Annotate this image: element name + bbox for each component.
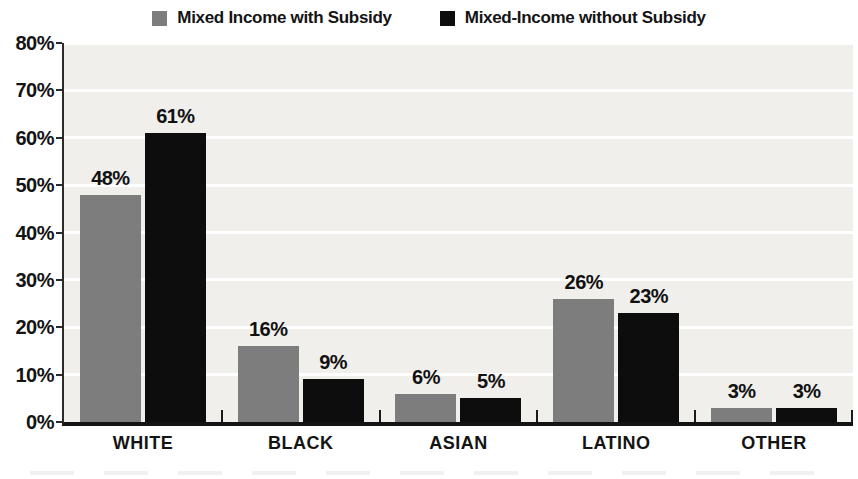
x-axis-label-white: WHITE — [64, 433, 222, 454]
legend-label-with-subsidy: Mixed Income with Subsidy — [177, 8, 391, 28]
bar-value-label: 16% — [249, 318, 288, 341]
bar-group-other: 3%3% — [695, 43, 853, 422]
x-axis-tick — [536, 410, 538, 422]
bar-value-label: 3% — [793, 380, 821, 403]
legend-swatch-with-subsidy — [152, 11, 167, 26]
bar-with-subsidy-latino: 26% — [553, 299, 614, 422]
x-axis-label-other: OTHER — [695, 433, 853, 454]
bar-value-label: 26% — [565, 271, 604, 294]
y-axis-label-60: 60% — [0, 126, 54, 150]
y-axis-label-30: 30% — [0, 268, 54, 292]
y-axis-tick — [56, 42, 62, 44]
bar-value-label: 3% — [728, 380, 756, 403]
bar-value-label: 23% — [630, 285, 669, 308]
y-axis-label-0: 0% — [0, 410, 54, 434]
bar-without-subsidy-asian: 5% — [460, 398, 521, 422]
y-axis-label-40: 40% — [0, 221, 54, 245]
bar-with-subsidy-black: 16% — [238, 346, 299, 422]
x-axis-tick — [221, 410, 223, 422]
bar-with-subsidy-white: 48% — [80, 195, 141, 422]
y-axis-tick — [56, 232, 62, 234]
chart-figure: Mixed Income with Subsidy Mixed-Income w… — [0, 0, 858, 479]
bar-value-label: 5% — [477, 370, 505, 393]
legend-swatch-without-subsidy — [440, 11, 455, 26]
bar-with-subsidy-other: 3% — [711, 408, 772, 422]
y-axis-tick — [56, 137, 62, 139]
y-axis-tick — [56, 421, 62, 423]
y-axis-tick — [56, 89, 62, 91]
bar-without-subsidy-white: 61% — [145, 133, 206, 422]
bar-value-label: 48% — [91, 167, 130, 190]
y-axis-label-20: 20% — [0, 315, 54, 339]
bar-value-label: 9% — [319, 351, 347, 374]
bar-without-subsidy-other: 3% — [776, 408, 837, 422]
y-axis-label-80: 80% — [0, 31, 54, 55]
bar-value-label: 61% — [156, 105, 195, 128]
bar-group-white: 48%61% — [64, 43, 222, 422]
y-axis-tick — [56, 374, 62, 376]
plot-area: 48%61%16%9%6%5%26%23%3%3% — [62, 43, 853, 426]
x-axis-tick-end — [851, 410, 853, 422]
chart-legend: Mixed Income with Subsidy Mixed-Income w… — [0, 8, 858, 28]
x-axis-label-asian: ASIAN — [380, 433, 538, 454]
y-axis-tick — [56, 184, 62, 186]
legend-item-without-subsidy: Mixed-Income without Subsidy — [440, 8, 706, 28]
bar-group-latino: 26%23% — [537, 43, 695, 422]
y-axis-label-10: 10% — [0, 363, 54, 387]
bar-without-subsidy-latino: 23% — [618, 313, 679, 422]
x-axis-label-latino: LATINO — [537, 433, 695, 454]
x-axis-tick — [694, 410, 696, 422]
legend-label-without-subsidy: Mixed-Income without Subsidy — [465, 8, 706, 28]
y-axis-label-70: 70% — [0, 78, 54, 102]
x-axis-tick — [379, 410, 381, 422]
bar-with-subsidy-asian: 6% — [395, 394, 456, 422]
legend-item-with-subsidy: Mixed Income with Subsidy — [152, 8, 391, 28]
bar-without-subsidy-black: 9% — [303, 379, 364, 422]
y-axis-tick — [56, 326, 62, 328]
y-axis-tick — [56, 279, 62, 281]
x-axis-label-black: BLACK — [222, 433, 380, 454]
y-axis-label-50: 50% — [0, 173, 54, 197]
bar-group-black: 16%9% — [222, 43, 380, 422]
bar-group-asian: 6%5% — [380, 43, 538, 422]
bar-value-label: 6% — [412, 366, 440, 389]
cropped-caption-artifact — [30, 471, 828, 475]
